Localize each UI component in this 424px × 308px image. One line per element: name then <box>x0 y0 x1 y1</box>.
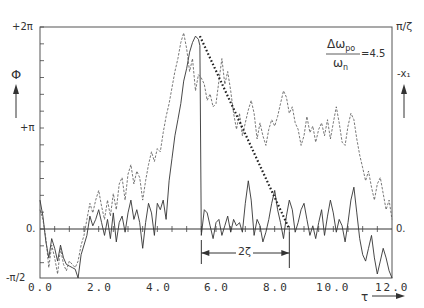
up-arrow-icon <box>13 84 19 118</box>
y-axis-label-phi: Φ <box>11 67 21 82</box>
x-tick-label: 10.0 <box>316 281 351 294</box>
right-axis-label-x1: -x₁ <box>397 68 411 79</box>
right-axis-zero-label: 0. <box>396 223 406 234</box>
x-axis-label-tau: τ <box>361 290 368 304</box>
phase-response-chart <box>0 0 424 308</box>
span-label-2zeta: 2ζ <box>236 245 253 258</box>
y-tick-label-neg-half-pi: -π/2 <box>6 272 25 283</box>
ratio-numerator: Δωpo <box>327 37 355 53</box>
ratio-value: =4.5 <box>361 48 385 59</box>
y-tick-label-2pi: +2π <box>12 21 33 32</box>
left-axis-ticks <box>40 27 44 263</box>
x-tick-label: 0.0 <box>28 281 54 294</box>
x-tick-label: 2.0 <box>87 281 113 294</box>
y-tick-label-pi: +π <box>20 122 34 133</box>
x-tick-label: 12.0 <box>375 281 410 294</box>
x-tick-label: 4.0 <box>146 281 172 294</box>
y-tick-label-zero: 0. <box>26 223 36 234</box>
x-tick-label: 6.0 <box>204 281 230 294</box>
up-arrow-icon <box>401 84 407 118</box>
right-axis-top-label: π/ζ <box>396 20 412 33</box>
ratio-denominator: ωn <box>333 56 348 72</box>
x-tick-label: 8.0 <box>263 281 289 294</box>
